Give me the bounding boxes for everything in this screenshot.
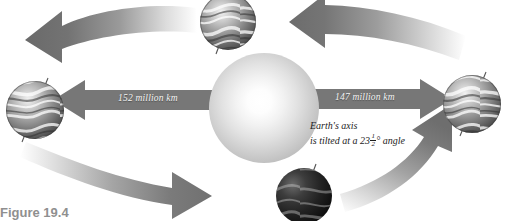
axis-tilt-text-before: is tilted at a 23	[310, 135, 370, 146]
earth-globe-right	[443, 72, 501, 136]
earth-globe-left	[6, 78, 64, 142]
earth-globe-bottom	[276, 164, 332, 221]
distance-label-left: 152 million km	[118, 93, 178, 103]
axis-tilt-text-after: ° angle	[376, 135, 405, 146]
axis-tilt-annotation: Earth's axis is tilted at a 2312° angle	[310, 119, 405, 148]
figure-caption: Figure 19.4	[0, 205, 69, 220]
axis-tilt-line-1: Earth's axis	[310, 120, 357, 131]
distance-label-right: 147 million km	[335, 92, 395, 102]
figure-earth-orbit: 152 million km 147 million km Earth's ax…	[0, 0, 505, 221]
earth-globe-top	[200, 0, 256, 54]
axis-tilt-line-2: is tilted at a 2312° angle	[310, 133, 405, 148]
earth-globes-layer	[0, 0, 505, 221]
